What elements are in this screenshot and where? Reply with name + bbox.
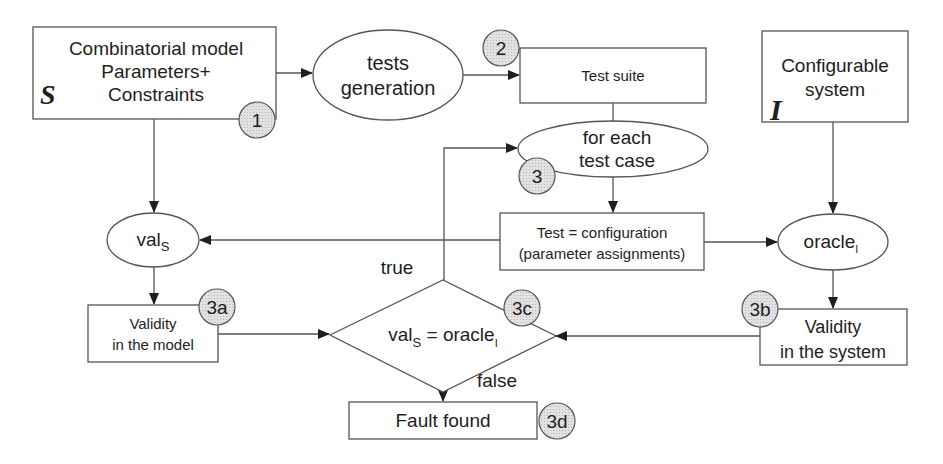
validity-system-line1: Validity <box>805 317 862 337</box>
model-label-line1: Combinatorial model <box>69 38 243 59</box>
validity-model-box <box>88 305 218 362</box>
tests-generation-node <box>313 30 463 120</box>
step-badge-3a: 3a <box>199 289 235 325</box>
step-badge-3: 3 <box>519 158 555 194</box>
test-suite-label: Test suite <box>581 67 644 84</box>
svg-text:3b: 3b <box>749 299 770 320</box>
tests-generation-line2: generation <box>341 77 436 99</box>
svg-text:2: 2 <box>496 38 507 59</box>
test-config-line1: Test = configuration <box>537 224 668 241</box>
model-label-line3: Constraints <box>108 84 204 105</box>
edge-label-false: false <box>477 370 517 391</box>
svg-text:3: 3 <box>532 166 543 187</box>
step-badge-3b: 3b <box>742 291 778 327</box>
system-label-line2: system <box>805 79 865 100</box>
svg-text:3d: 3d <box>546 411 567 432</box>
svg-text:3c: 3c <box>512 298 532 319</box>
model-symbol-s: S <box>40 79 56 110</box>
fault-found-label: Fault found <box>395 410 490 431</box>
svg-text:1: 1 <box>252 110 263 131</box>
model-label-line2: Parameters+ <box>101 61 210 82</box>
validity-model-line2: in the model <box>112 336 194 353</box>
validity-system-line2: in the system <box>780 342 886 362</box>
tests-generation-line1: tests <box>367 52 409 74</box>
oracle-i-label: oracleI <box>804 231 859 255</box>
configurable-system-box <box>762 31 908 122</box>
step-badge-3c: 3c <box>504 290 540 326</box>
flowchart-canvas: Combinatorial model Parameters+ Constrai… <box>0 0 943 464</box>
edge-label-true: true <box>381 257 414 278</box>
for-each-line1: for each <box>583 127 652 148</box>
step-badge-2: 2 <box>483 30 519 66</box>
svg-text:3a: 3a <box>206 297 228 318</box>
validity-model-line1: Validity <box>129 315 177 332</box>
step-badge-1: 1 <box>239 102 275 138</box>
system-symbol-i: I <box>769 93 783 126</box>
step-badge-3d: 3d <box>539 403 575 439</box>
test-config-line2: (parameter assignments) <box>519 245 686 262</box>
system-label-line1: Configurable <box>781 55 889 76</box>
for-each-line2: test case <box>579 150 655 171</box>
